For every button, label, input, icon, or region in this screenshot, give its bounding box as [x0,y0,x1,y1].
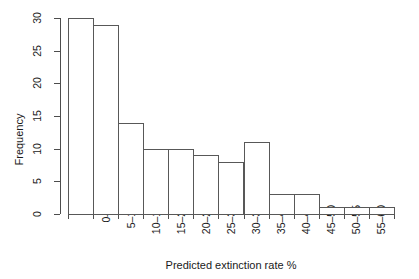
y-axis-tick-label: 0 [31,201,43,227]
y-axis-tick-label: 20 [31,70,43,96]
y-axis-line [60,18,61,214]
y-axis-tick-label: 15 [31,103,43,129]
histogram-bar [193,155,219,215]
histogram-figure: Frequency 051015202530 00–55–1010–1515–2… [0,0,419,279]
histogram-bar [143,149,169,215]
y-axis-tick-label: 25 [31,38,43,64]
histogram-bar [319,207,345,215]
histogram-bar [294,194,320,215]
histogram-bar [269,194,295,215]
histogram-bar [344,207,370,215]
histogram-bar [93,25,119,215]
histogram-bar [218,162,244,215]
x-axis-title: Predicted extinction rate % [68,259,394,271]
histogram-bar [369,207,395,215]
y-axis-tick [54,18,60,19]
histogram-bar [68,18,94,215]
y-axis-tick-label: 30 [31,5,43,31]
y-axis-tick-label: 5 [31,168,43,194]
y-axis-tick [54,214,60,215]
y-axis-tick [54,181,60,182]
y-axis-tick [54,83,60,84]
histogram-bar [168,149,194,215]
histogram-bar [244,142,270,215]
y-axis-tick-label: 10 [31,136,43,162]
y-axis-tick [54,116,60,117]
y-axis-tick [54,51,60,52]
y-axis-tick [54,149,60,150]
y-axis-title: Frequency [13,0,27,279]
histogram-bar [118,123,144,215]
